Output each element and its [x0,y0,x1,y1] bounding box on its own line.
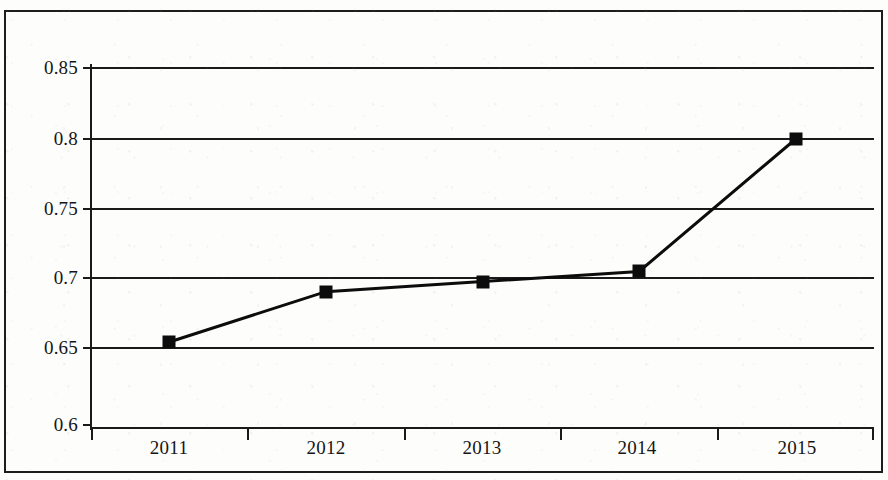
data-point-2012 [319,285,332,298]
x-tick-mark-2 [404,427,406,440]
y-tick-label-0: 0.85 [44,57,78,79]
x-tick-label-2014: 2014 [617,437,656,459]
data-point-2011 [163,336,176,349]
x-tick-label-2012: 2012 [306,437,345,459]
y-tick-label-1: 0.8 [54,128,78,150]
x-tick-label-2015: 2015 [777,437,816,459]
y-tick-label-3: 0.7 [54,267,78,289]
gridline-075 [91,208,874,210]
gridline-065 [91,347,874,349]
x-tick-mark-3 [560,427,562,440]
y-tick-label-5: 0.6 [54,414,78,436]
y-axis-tick-labels: 0.85 0.8 0.75 0.7 0.65 0.6 [0,0,78,480]
x-tick-label-2013: 2013 [462,437,501,459]
y-tick-label-2: 0.75 [44,198,78,220]
gridline-085 [91,67,874,69]
chart-page: 0.85 0.8 0.75 0.7 0.65 0.6 2011 2012 201… [0,0,888,480]
gridline-080 [91,138,874,140]
x-tick-mark-1 [247,427,249,440]
x-tick-mark-0 [91,427,93,440]
x-tick-mark-4 [717,427,719,440]
x-tick-mark-5 [872,427,874,440]
y-tick-label-4: 0.65 [44,337,78,359]
x-tick-label-2011: 2011 [150,437,189,459]
x-axis-line [91,427,874,429]
data-point-2013 [476,275,489,288]
data-point-2014 [633,265,646,278]
plot-area [91,67,874,427]
data-point-2015 [789,133,802,146]
